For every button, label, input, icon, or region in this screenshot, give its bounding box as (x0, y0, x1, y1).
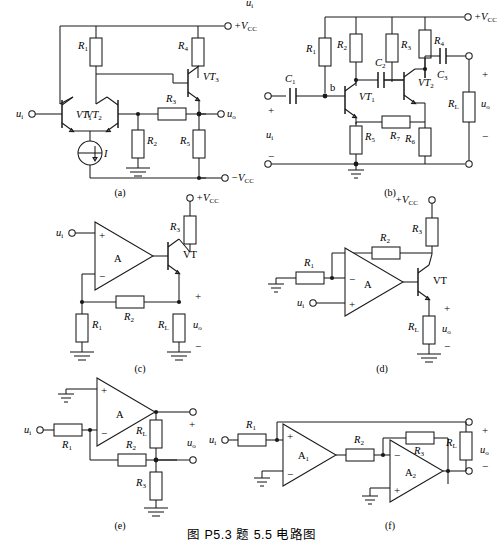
opamp2-minus-f: − (394, 449, 400, 461)
resistor-R2-b (350, 34, 362, 62)
resistor-R2-d (372, 247, 400, 259)
resistor-R3-d (426, 218, 438, 246)
resistor-R5-b (350, 126, 362, 154)
resistor-R6-b (419, 128, 431, 156)
transistor-VT2-label-b: VT2 (418, 77, 434, 90)
opamp1-plus-f: + (287, 430, 293, 442)
resistor-R3-label-b: R3 (400, 39, 411, 52)
resistor-RL-label-b: RL (447, 98, 459, 111)
resistor-RL-label-f: RL (445, 437, 457, 450)
resistor-R2-label-a: R2 (146, 135, 157, 148)
transistor-VT1-label-b: VT1 (359, 91, 375, 104)
resistor-R2-a (132, 130, 144, 158)
node-dot-c2 (177, 300, 181, 304)
opamp-A-label-c: A (114, 253, 122, 264)
resistor-R2-label-e: R2 (125, 439, 136, 452)
resistor-R1-label-e: R1 (61, 439, 72, 452)
resistor-R1-label-a: R1 (77, 40, 88, 53)
output-label-a: uo (227, 108, 236, 121)
resistor-R3-c (184, 216, 196, 244)
output-minus-f: − (482, 460, 488, 472)
resistor-R1-a (90, 38, 102, 66)
resistor-R3-f (406, 432, 434, 444)
resistor-R1-label-d: R1 (303, 257, 314, 270)
capacitor-C3-label-b: C3 (437, 69, 448, 82)
resistor-R3-label-c: R3 (169, 221, 180, 234)
opamp-plus-d: + (349, 298, 355, 310)
resistor-R5-label-b: R5 (364, 131, 375, 144)
opamp-plus-c: + (99, 229, 105, 241)
resistor-R5-label-a: R5 (179, 135, 190, 148)
resistor-R2-e (118, 454, 146, 466)
subfigure-label-d: (d) (376, 363, 388, 375)
supply-positive-label-c: +VCC (196, 192, 219, 205)
supply-positive-label-a: +VCC (234, 20, 257, 33)
circuit-figure-sheet: .w{stroke:#1a1a1a;stroke-width:1.05;fill… (0, 0, 504, 547)
resistor-R1-label-b: R1 (305, 43, 316, 56)
input-label-e: ui (24, 424, 31, 437)
input-minus-b: − (268, 150, 274, 162)
opamp-A-label-d: A (364, 279, 372, 290)
resistor-RL-f (460, 432, 472, 460)
resistor-R7-b (382, 116, 410, 128)
opamp-minus-e: − (101, 427, 107, 439)
input-label-a: ui (16, 108, 23, 121)
subfigure-a: +VCC R1 R4 VT3 VT1 (16, 20, 257, 199)
output-label-d: uo (442, 323, 451, 336)
input-label-d: ui (297, 297, 304, 310)
transistor-VT-label-d: VT (433, 275, 448, 286)
output-minus-d: − (444, 340, 450, 352)
resistor-R1-label-c: R1 (91, 319, 102, 332)
output-label-f: uo (480, 444, 489, 457)
figure-caption: 图 P5.3 题 5.5 电路图 (0, 524, 504, 543)
input-plus-b: + (268, 104, 274, 116)
supply-negative-label-a: −VCC (231, 172, 254, 185)
output-plus-b: + (482, 68, 488, 80)
transistor-VT3-label-a: VT3 (203, 71, 219, 84)
resistor-R4-label-a: R4 (177, 40, 188, 53)
resistor-R2-label-c: R2 (123, 311, 134, 324)
resistor-RL-label-d: RL (407, 321, 419, 334)
input-label-c: ui (56, 227, 63, 240)
capacitor-C2-label-b: C2 (375, 57, 386, 70)
resistor-RL-d (423, 316, 435, 344)
resistor-R4-a (192, 38, 204, 66)
supply-positive-label-d: +VCC (395, 194, 418, 207)
resistor-R3-label-a: R3 (165, 93, 176, 106)
resistor-R1-b (319, 38, 331, 66)
node-label-b: b (330, 82, 335, 93)
output-label-b: uo (481, 98, 490, 111)
resistor-R1-label-f: R1 (245, 419, 256, 432)
subfigure-label-c: (c) (134, 363, 145, 375)
resistor-R7-label-b: R7 (389, 130, 400, 143)
resistor-RL-label-e: RL (135, 425, 147, 438)
subfigure-d: +VCC R3 R2 A − + R1 ui (268, 194, 451, 375)
resistor-RL-b (463, 92, 475, 122)
output-label-c: uo (193, 319, 202, 332)
resistor-R2-c (116, 296, 144, 308)
output-plus-c: + (195, 290, 201, 302)
subfigure-e: A + − ui R1 R2 + uo − RL (24, 378, 196, 532)
resistor-R1-d (296, 272, 324, 284)
output-plus-e: + (189, 418, 195, 430)
resistor-R4-b (419, 30, 431, 58)
transistor-VT-label-c: VT (183, 249, 198, 260)
input-label-f: ui (209, 434, 216, 447)
opamp-plus-e: + (101, 384, 107, 396)
output-plus-d: + (444, 302, 450, 314)
subfigure-b: +VCC R1 R2 R3 R4 C1 b + ui − (265, 11, 497, 199)
opamp1-minus-f: − (287, 468, 293, 480)
resistor-R6-label-b: R6 (404, 133, 415, 146)
opamp-minus-c: − (99, 270, 105, 282)
resistor-R2-f (346, 449, 374, 461)
opamp-minus-d: − (349, 273, 355, 285)
resistor-R1-e (54, 424, 82, 436)
current-source-label-a: I (103, 148, 108, 159)
subfigure-c: +VCC R3 A + − ui VT R2 R (56, 192, 219, 375)
subfigure-f: ui R1 A1 + − R2 R3 A2 − (209, 419, 489, 532)
resistor-R2-label-b: R2 (336, 39, 347, 52)
resistor-R3-label-d: R3 (411, 223, 422, 236)
resistor-R2-label-f: R2 (353, 434, 364, 447)
resistor-RL-e (150, 420, 162, 448)
resistor-RL-c (173, 314, 185, 342)
